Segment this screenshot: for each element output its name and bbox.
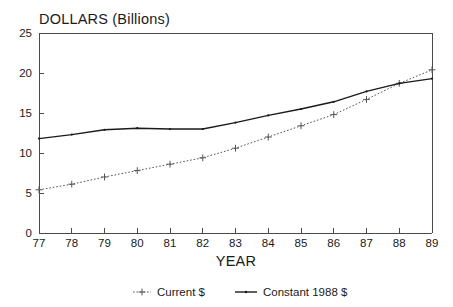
y-tick-label: 10	[19, 147, 32, 159]
data-point-marker-dot	[398, 82, 400, 84]
data-series	[36, 66, 436, 193]
y-tick-label: 25	[19, 27, 32, 39]
legend-marker-dot	[245, 291, 247, 293]
x-tick-label: 89	[426, 237, 439, 249]
y-tick-label: 5	[26, 187, 32, 199]
data-point-marker-dot	[267, 114, 269, 116]
data-point-marker-plus	[68, 181, 75, 188]
data-point-marker-dot	[71, 134, 73, 136]
x-tick-label: 86	[327, 237, 340, 249]
data-point-marker-plus	[298, 122, 305, 129]
y-tick-label: 20	[19, 67, 32, 79]
data-point-marker-dot	[202, 128, 204, 130]
data-point-marker-dot	[103, 129, 105, 131]
x-tick-label: 80	[131, 237, 144, 249]
data-point-marker-plus	[363, 96, 370, 103]
x-tick-label: 85	[295, 237, 308, 249]
data-point-marker-plus	[265, 134, 272, 141]
data-point-marker-dot	[365, 90, 367, 92]
legend-item-current[interactable]: Current $	[133, 286, 206, 298]
y-tick-label: 15	[19, 107, 32, 119]
chart-title: DOLLARS (Billions)	[39, 11, 170, 27]
data-point-marker-dot	[169, 128, 171, 130]
legend-label: Constant 1988 $	[263, 286, 348, 298]
data-point-marker-dot	[38, 138, 40, 140]
legend-marker-plus	[139, 289, 146, 296]
data-point-marker-plus	[167, 161, 174, 168]
chart-legend: Current $Constant 1988 $	[133, 286, 348, 298]
data-point-marker-plus	[134, 167, 141, 174]
data-point-marker-dot	[136, 127, 138, 129]
plot-frame	[39, 33, 432, 233]
x-tick-label: 88	[393, 237, 406, 249]
series-line	[39, 79, 432, 139]
legend-label: Current $	[157, 286, 206, 298]
legend-item-constant[interactable]: Constant 1988 $	[235, 286, 348, 298]
series-line	[39, 70, 432, 190]
data-point-marker-dot	[333, 101, 335, 103]
chart-container: DOLLARS (Billions) 0510152025 7778798081…	[0, 0, 453, 307]
data-point-marker-plus	[232, 145, 239, 152]
x-tick-label: 82	[196, 237, 209, 249]
data-point-marker-plus	[101, 174, 108, 181]
x-tick-label: 78	[65, 237, 78, 249]
x-axis: 77787980818283848586878889	[33, 228, 439, 249]
axis-lines	[39, 33, 432, 233]
data-point-marker-plus	[36, 186, 43, 193]
x-tick-label: 83	[229, 237, 242, 249]
x-tick-label: 79	[98, 237, 111, 249]
data-point-marker-dot	[234, 122, 236, 124]
x-tick-label: 84	[262, 237, 275, 249]
y-tick-label: 0	[26, 227, 32, 239]
data-point-marker-plus	[330, 111, 337, 118]
x-tick-label: 81	[164, 237, 177, 249]
data-point-marker-dot	[431, 78, 433, 80]
x-axis-title: YEAR	[216, 253, 256, 269]
x-tick-label: 87	[360, 237, 373, 249]
data-series-group	[36, 66, 436, 193]
data-point-marker-plus	[199, 154, 206, 161]
x-tick-label: 77	[33, 237, 46, 249]
y-axis: 0510152025	[19, 27, 44, 239]
line-chart: DOLLARS (Billions) 0510152025 7778798081…	[0, 0, 453, 307]
data-point-marker-plus	[429, 66, 436, 73]
data-series	[38, 78, 433, 140]
data-point-marker-dot	[300, 108, 302, 110]
